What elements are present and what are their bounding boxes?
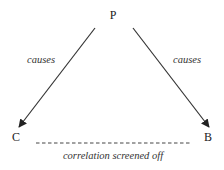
edge-p-to-b xyxy=(133,28,209,127)
causal-diagram: P C B causes causes correlation screened… xyxy=(0,0,224,170)
node-p: P xyxy=(110,8,117,22)
edge-label-c-b: correlation screened off xyxy=(63,150,165,161)
edge-label-p-b: causes xyxy=(173,54,201,65)
node-c: C xyxy=(12,130,20,144)
node-b: B xyxy=(204,130,212,144)
edge-p-to-c xyxy=(19,28,95,127)
edge-label-p-c: causes xyxy=(27,54,55,65)
